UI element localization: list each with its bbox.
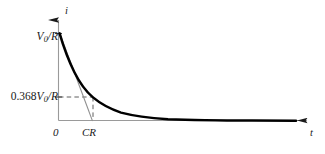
y-max-denominator: /R [48, 30, 58, 42]
y-tau-denominator: /R [48, 90, 58, 102]
rc-decay-figure: V0/R 0.368V0/R 0 CR t i [0, 0, 325, 154]
y-axis-max-value-label: V0/R [37, 31, 58, 45]
y-axis-tau-value-label: 0.368V0/R [11, 91, 58, 105]
exponential-decay-curve [60, 33, 296, 120]
y-tau-numeric-prefix: 0.368 [11, 90, 37, 102]
x-axis-title: t [310, 128, 313, 139]
y-max-numerator: V [37, 30, 44, 42]
y-axis-title: i [65, 6, 68, 17]
plot-canvas [0, 0, 325, 154]
x-axis-tau-tick-label: CR [82, 127, 96, 138]
y-tau-numerator: V [37, 90, 44, 102]
origin-label: 0 [53, 127, 59, 138]
